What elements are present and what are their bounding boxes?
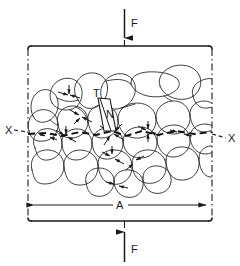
force-top-group: F (125, 9, 139, 38)
section-label-left: X (5, 124, 13, 136)
grain (31, 150, 64, 184)
contact-arrow (102, 152, 110, 156)
grain (159, 65, 201, 99)
area-label: A (116, 199, 124, 211)
contact-arrow (114, 134, 124, 140)
section-leader-left (14, 130, 28, 132)
force-bottom-group: F (125, 232, 139, 262)
contact-arrow (119, 186, 128, 188)
grain (28, 110, 58, 142)
contact-arrow (74, 118, 80, 124)
contact-arrow (58, 92, 68, 95)
grain (131, 72, 179, 97)
grain (143, 166, 171, 194)
frame-corner-top-left (28, 46, 31, 49)
grain (199, 146, 226, 177)
normal-force-label: N (106, 108, 114, 120)
grain (114, 170, 143, 198)
section-leader-right (212, 134, 226, 138)
grain (33, 129, 62, 161)
area-dimension-group: A (34, 199, 206, 211)
section-label-right: X (228, 132, 236, 144)
soil-grain-force-diagram: F (0, 0, 240, 266)
frame-corner-bottom-right (209, 218, 212, 221)
frame-corner-top-right (209, 46, 212, 49)
tangential-force-label: T (93, 87, 100, 99)
grain (166, 147, 199, 180)
contact-force-resolution: T N (93, 87, 116, 131)
frame-corner-bottom-left (28, 218, 31, 221)
contact-arrow (70, 110, 79, 115)
diagram-canvas: F (0, 0, 240, 266)
force-top-label: F (131, 17, 138, 29)
grain (98, 150, 132, 184)
grain-boundary (57, 98, 78, 101)
grain (64, 150, 98, 185)
contact-arrow (115, 159, 124, 164)
grain-boundary (106, 79, 131, 84)
force-bottom-label: F (131, 243, 138, 255)
